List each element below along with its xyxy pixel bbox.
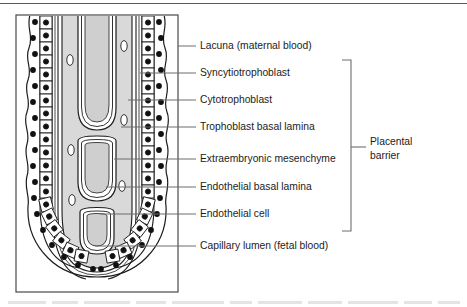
placental-barrier-label-line2: barrier (370, 150, 400, 161)
placental-barrier-label-line1: Placental (370, 136, 412, 147)
label-endothelial-basal-lamina: Endothelial basal lamina (200, 181, 312, 192)
capillary-lumen-seg3 (87, 214, 107, 247)
label-lacuna: Lacuna (maternal blood) (200, 40, 312, 51)
label-syncytiotrophoblast: Syncytiotrophoblast (200, 67, 290, 78)
figure-caption-clipped (8, 301, 460, 304)
placental-villus-figure: Lacuna (maternal blood) Syncytiotrophobl… (0, 0, 467, 307)
figure-svg: Lacuna (maternal blood) Syncytiotrophobl… (0, 0, 467, 307)
label-endothelial-cell: Endothelial cell (200, 208, 269, 219)
label-capillary-lumen: Capillary lumen (fetal blood) (200, 240, 328, 251)
placental-barrier-bracket (342, 60, 366, 231)
capillary-lumen-main (85, 15, 109, 122)
label-cytotrophoblast: Cytotrophoblast (200, 94, 272, 105)
label-trophoblast-basal-lamina: Trophoblast basal lamina (200, 121, 315, 132)
label-extraembryonic-mesenchyme: Extraembryonic mesenchyme (200, 153, 336, 164)
capillary-lumen-seg2 (85, 143, 109, 194)
